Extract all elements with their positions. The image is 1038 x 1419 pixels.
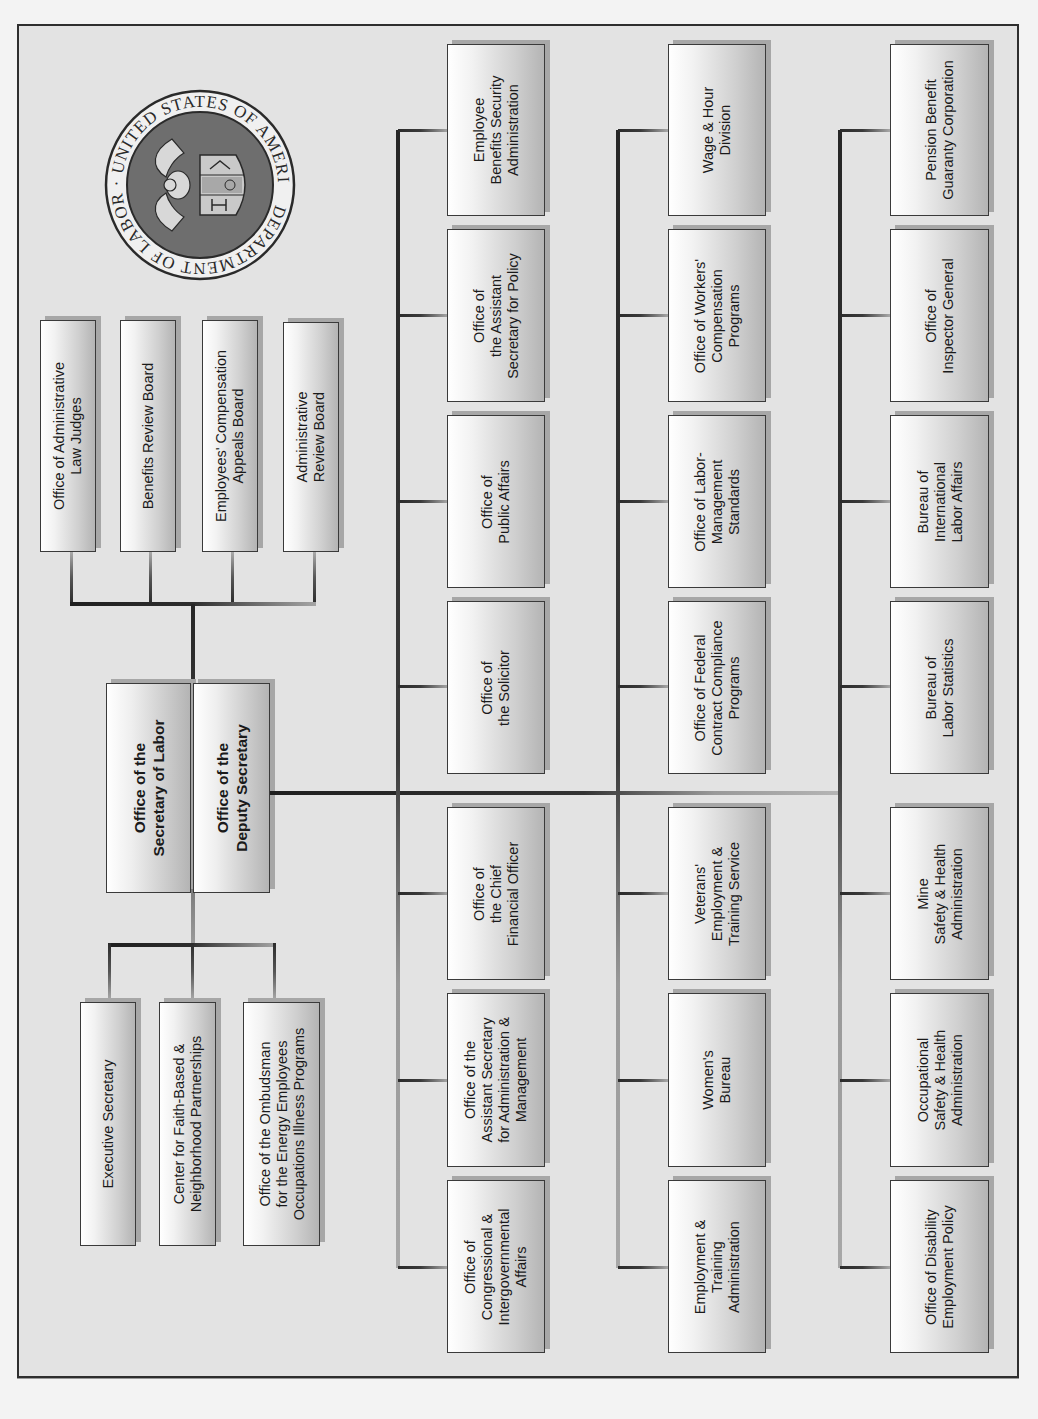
connector xyxy=(398,500,448,503)
box-office-of-labor-management-standards: Office of Labor- Management Standards xyxy=(668,415,766,588)
box-label: Employees' Compensation Appeals Board xyxy=(213,350,247,522)
connector xyxy=(618,1266,668,1269)
box-center-for-faith-based-partnerships: Center for Faith-Based & Neighborhood Pa… xyxy=(159,1002,216,1246)
box-label: Pension Benefit Guaranty Corporation xyxy=(923,60,957,199)
box-office-of-administrative-law-judges: Office of Administrative Law Judges xyxy=(40,320,96,552)
connector xyxy=(840,314,890,317)
box-mine-safety-health-administration: Mine Safety & Health Administration xyxy=(890,807,989,980)
connector xyxy=(191,943,194,1000)
box-veterans-employment-training-service: Veterans' Employment & Training Service xyxy=(668,807,766,980)
box-wage-hour-division: Wage & Hour Division xyxy=(668,44,766,216)
connector xyxy=(618,892,668,895)
connector xyxy=(618,685,668,688)
box-label: Office of the Deputy Secretary xyxy=(213,724,251,852)
box-congressional-intergovernmental-affairs: Office of Congressional & Intergovernmen… xyxy=(447,1180,545,1353)
box-occupational-safety-health-administration: Occupational Safety & Health Administrat… xyxy=(890,993,989,1167)
box-label: Mine Safety & Health Administration xyxy=(914,843,965,944)
box-label: Office of Federal Contract Compliance Pr… xyxy=(692,620,743,755)
box-label: Administrative Review Board xyxy=(294,391,328,482)
connector-column-c-spine xyxy=(838,130,842,1268)
box-bureau-of-international-labor-affairs: Bureau of International Labor Affairs xyxy=(890,415,989,588)
connector xyxy=(840,685,890,688)
box-label: Women's Bureau xyxy=(700,1050,734,1110)
connector xyxy=(398,1079,448,1082)
box-executive-secretary: Executive Secretary xyxy=(80,1002,136,1246)
box-label: Office of Inspector General xyxy=(923,258,957,373)
connector xyxy=(398,129,448,132)
box-office-of-disability-employment-policy: Office of Disability Employment Policy xyxy=(890,1180,989,1353)
connector xyxy=(273,943,276,1000)
box-label: Wage & Hour Division xyxy=(700,87,734,174)
box-assistant-secretary-for-policy: Office of the Assistant Secretary for Po… xyxy=(447,229,545,402)
box-office-of-public-affairs: Office of Public Affairs xyxy=(447,415,545,588)
connector xyxy=(398,314,448,317)
box-label: Office of Labor- Management Standards xyxy=(692,452,743,552)
box-office-of-the-ombudsman: Office of the Ombudsman for the Energy E… xyxy=(243,1002,320,1246)
connector xyxy=(618,129,668,132)
box-label: Benefits Review Board xyxy=(140,363,157,510)
connector xyxy=(149,552,152,604)
connector xyxy=(313,552,316,604)
box-employees-compensation-appeals-board: Employees' Compensation Appeals Board xyxy=(202,320,258,552)
box-label: Office of the Secretary of Labor xyxy=(130,720,168,857)
box-label: Office of Public Affairs xyxy=(479,460,513,544)
box-label: Employment & Training Administration xyxy=(692,1219,743,1313)
box-label: Office of the Assistant Secretary for Po… xyxy=(471,253,522,379)
box-label: Executive Secretary xyxy=(100,1060,117,1189)
connector xyxy=(231,552,234,604)
connector xyxy=(398,685,448,688)
box-label: Office of Administrative Law Judges xyxy=(51,362,85,510)
box-administrative-review-board: Administrative Review Board xyxy=(283,322,339,552)
box-office-of-the-secretary: Office of the Secretary of Labor xyxy=(106,683,191,893)
connector xyxy=(840,1266,890,1269)
box-office-of-federal-contract-compliance-programs: Office of Federal Contract Compliance Pr… xyxy=(668,601,766,774)
box-label: Occupational Safety & Health Administrat… xyxy=(914,1030,965,1131)
box-office-of-the-chief-financial-officer: Office of the Chief Financial Officer xyxy=(447,807,545,980)
dol-seal-icon: DEPARTMENT OF LABOR · UNITED STATES OF A… xyxy=(104,89,296,281)
box-office-of-inspector-general: Office of Inspector General xyxy=(890,229,989,402)
connector xyxy=(398,1266,448,1269)
box-label: Office of the Solicitor xyxy=(479,650,513,726)
connector-column-a-spine xyxy=(396,130,400,1268)
connector-column-b-spine xyxy=(616,130,620,1268)
connector xyxy=(840,500,890,503)
box-label: Office of the Ombudsman for the Energy E… xyxy=(256,1028,307,1221)
connector xyxy=(108,943,111,1000)
connector xyxy=(398,892,448,895)
connector-deputy-trunk xyxy=(270,791,840,795)
box-womens-bureau: Women's Bureau xyxy=(668,993,766,1167)
box-label: Center for Faith-Based & Neighborhood Pa… xyxy=(171,1036,205,1213)
connector xyxy=(840,1079,890,1082)
box-employment-training-administration: Employment & Training Administration xyxy=(668,1180,766,1353)
connector xyxy=(840,129,890,132)
connector xyxy=(70,552,73,604)
connector xyxy=(618,500,668,503)
box-pension-benefit-guaranty-corporation: Pension Benefit Guaranty Corporation xyxy=(890,44,989,216)
box-label: Veterans' Employment & Training Service xyxy=(692,841,743,945)
box-label: Office of Workers' Compensation Programs xyxy=(692,258,743,372)
connector xyxy=(618,314,668,317)
box-assistant-secretary-for-administration-management: Office of the Assistant Secretary for Ad… xyxy=(447,993,545,1167)
box-label: Office of the Chief Financial Officer xyxy=(471,841,522,946)
box-label: Office of Disability Employment Policy xyxy=(923,1205,957,1328)
box-label: Bureau of International Labor Affairs xyxy=(914,461,965,542)
box-office-of-the-solicitor: Office of the Solicitor xyxy=(447,601,545,774)
connector xyxy=(618,1079,668,1082)
box-label: Office of the Assistant Secretary for Ad… xyxy=(462,1017,530,1143)
box-office-of-the-deputy-secretary: Office of the Deputy Secretary xyxy=(193,683,270,893)
box-label: Office of Congressional & Intergovernmen… xyxy=(462,1208,530,1325)
box-label: Employee Benefits Security Administratio… xyxy=(471,76,522,185)
box-office-of-workers-compensation-programs: Office of Workers' Compensation Programs xyxy=(668,229,766,402)
box-benefits-review-board: Benefits Review Board xyxy=(120,320,176,552)
box-employee-benefits-security-administration: Employee Benefits Security Administratio… xyxy=(447,44,545,216)
box-bureau-of-labor-statistics: Bureau of Labor Statistics xyxy=(890,601,989,774)
connector xyxy=(840,892,890,895)
box-label: Bureau of Labor Statistics xyxy=(923,638,957,737)
